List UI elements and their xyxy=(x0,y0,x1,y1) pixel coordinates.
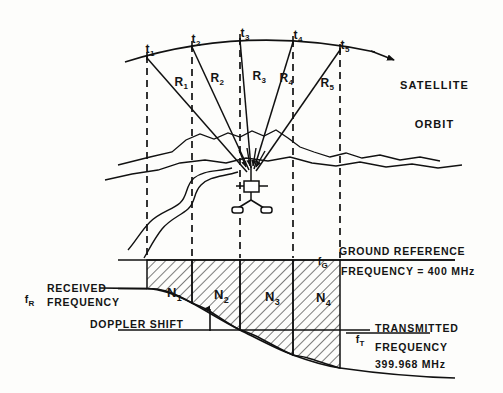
river-path xyxy=(128,168,238,258)
satellite-orbit-label: SATELLITE ORBIT xyxy=(400,53,469,144)
received-frequency-caption-line1: RECEIVED xyxy=(47,282,107,294)
orbit-label-line1: SATELLITE xyxy=(400,79,469,92)
time-label-t1: t1 xyxy=(138,28,155,58)
doppler-count-label-N3: N3 xyxy=(257,274,280,307)
doppler-count-label-N1: N1 xyxy=(159,270,182,303)
range-label-R2: R2 xyxy=(203,57,224,87)
range-label-R3: R3 xyxy=(245,55,266,85)
ground-reference-caption-line1: GROUND REFERENCE xyxy=(339,245,465,257)
received-frequency-caption-line2: FREQUENCY xyxy=(47,296,120,308)
transmitted-frequency-caption-line3: 399.968 MHz xyxy=(375,358,446,370)
doppler-count-label-N4: N4 xyxy=(308,275,331,308)
time-label-t3: t3 xyxy=(233,12,250,42)
range-label-R5: R5 xyxy=(313,62,334,92)
range-label-R1: R1 xyxy=(167,61,188,91)
slant-range-lines xyxy=(147,40,340,172)
transmitted-frequency-caption-line1: TRANSMITTED xyxy=(375,322,459,334)
doppler-count-label-N2: N2 xyxy=(206,272,229,305)
ground-reference-caption-line2: FREQUENCY = 400 MHz xyxy=(341,265,475,277)
time-label-t5: t5 xyxy=(333,24,350,54)
ground-frequency-symbol: fG xyxy=(311,243,328,270)
range-label-R4: R4 xyxy=(272,57,293,87)
transmitted-frequency-caption-line2: FREQUENCY xyxy=(375,341,448,353)
transmitted-frequency-symbol: fT xyxy=(349,321,365,348)
time-label-t4: t4 xyxy=(286,14,303,44)
received-frequency-symbol: fR xyxy=(18,281,35,308)
ground-receiver-antenna xyxy=(232,166,272,213)
doppler-shift-caption: DOPPLER SHIFT xyxy=(90,318,184,330)
doppler-satellite-diagram: t1 t2 t3 t4 t5 R1 R2 R3 R4 R5 SATELLITE … xyxy=(0,0,503,393)
time-label-t2: t2 xyxy=(184,18,201,48)
orbit-label-line2: ORBIT xyxy=(400,118,469,131)
